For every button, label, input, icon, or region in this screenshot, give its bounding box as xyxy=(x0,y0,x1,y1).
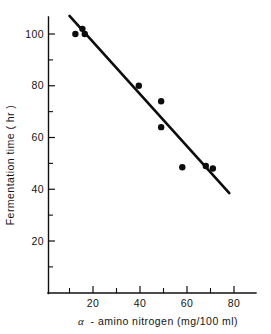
data-point xyxy=(203,163,209,169)
data-point xyxy=(210,165,216,171)
x-axis-ticks xyxy=(70,286,235,293)
x-tick-label: 80 xyxy=(228,297,240,309)
x-axis-title: α - amino nitrogen (mg/100 ml) xyxy=(78,315,238,327)
y-tick-label: 20 xyxy=(32,235,44,247)
data-point xyxy=(82,31,88,37)
y-tick-label: 100 xyxy=(25,28,44,40)
x-axis-tick-labels: 20406080 xyxy=(87,297,240,309)
y-axis-title: Fermentation time ( hr ) xyxy=(4,105,16,226)
x-tick-label: 60 xyxy=(181,297,193,309)
y-tick-label: 80 xyxy=(32,79,44,91)
data-point xyxy=(158,124,164,130)
scatter-plot-canvas: 20406080100 20406080 Fermentation time (… xyxy=(0,0,271,334)
data-point xyxy=(179,164,185,170)
y-axis-tick-labels: 20406080100 xyxy=(25,28,44,247)
data-point xyxy=(158,98,164,104)
data-point xyxy=(136,83,142,89)
y-tick-label: 60 xyxy=(32,131,44,143)
x-axis-title-rest: - amino nitrogen (mg/100 ml) xyxy=(91,315,238,327)
x-tick-label: 40 xyxy=(134,297,146,309)
y-axis-ticks xyxy=(49,34,56,267)
data-point xyxy=(72,31,78,37)
axes-group xyxy=(48,17,256,294)
chart-figure: 20406080100 20406080 Fermentation time (… xyxy=(0,0,271,334)
x-tick-label: 20 xyxy=(87,297,99,309)
y-tick-label: 40 xyxy=(32,183,44,195)
alpha-symbol: α xyxy=(78,315,84,327)
